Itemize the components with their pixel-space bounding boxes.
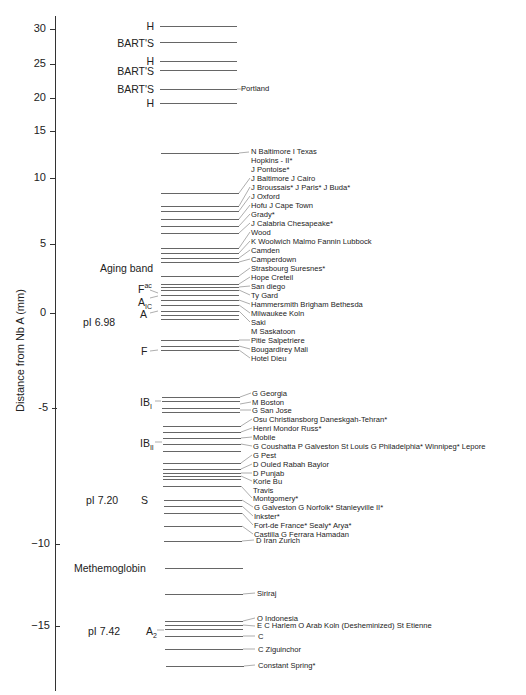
connector-lines	[0, 0, 526, 695]
electrophoresis-chart: Distance from Nb A (mm) 30 25 20 15 10 5…	[0, 0, 526, 695]
